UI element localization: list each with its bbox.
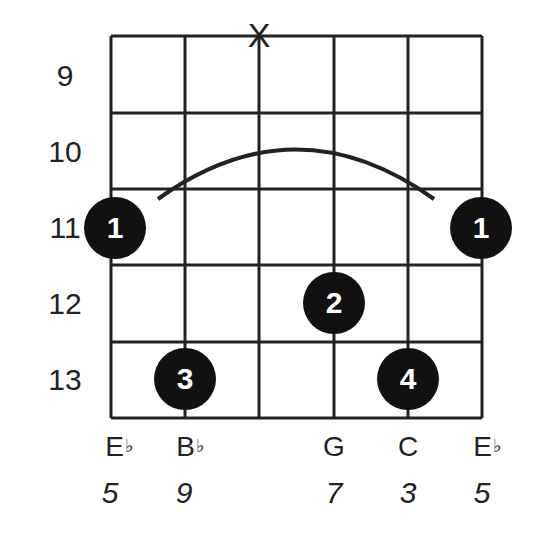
note-letter: B — [176, 431, 195, 462]
finger-dot-3: 3 — [154, 348, 216, 410]
barre-arc — [158, 150, 434, 200]
degree-string-5: 3 — [378, 478, 438, 508]
finger-dot-2: 2 — [303, 272, 365, 334]
finger-dot-1-string-6: 1 — [450, 197, 512, 259]
flat-sign: ♭ — [125, 436, 133, 456]
degree-string-1: 5 — [80, 478, 140, 508]
note-letter: C — [398, 431, 418, 462]
note-letter: E — [473, 431, 492, 462]
finger-dot-4: 4 — [377, 348, 439, 410]
note-string-2: B♭ — [160, 433, 220, 461]
degree-string-2: 9 — [154, 478, 214, 508]
note-string-1: E♭ — [89, 433, 149, 461]
flat-sign: ♭ — [196, 436, 204, 456]
note-letter: E — [105, 431, 124, 462]
degree-string-6: 5 — [452, 478, 512, 508]
fret-number-10: 10 — [35, 137, 95, 167]
note-letter: G — [323, 431, 345, 462]
finger-dot-1-string-1: 1 — [84, 197, 146, 259]
degree-string-4: 7 — [304, 478, 364, 508]
flat-sign: ♭ — [493, 436, 501, 456]
fret-number-13: 13 — [35, 365, 95, 395]
note-string-4: G — [304, 433, 364, 461]
note-string-5: C — [378, 433, 438, 461]
note-string-6: E♭ — [457, 433, 517, 461]
muted-string-marker: X — [239, 18, 279, 52]
fret-number-12: 12 — [35, 289, 95, 319]
fret-number-9: 9 — [35, 61, 95, 91]
